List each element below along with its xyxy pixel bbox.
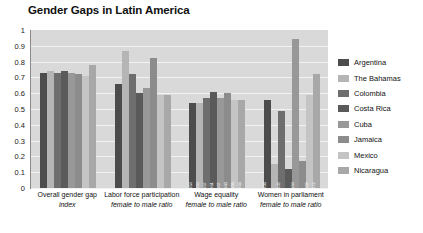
legend-label: Nicaragua xyxy=(354,166,388,175)
bar: 0.56 xyxy=(231,100,238,188)
legend-swatch-icon xyxy=(338,90,349,97)
y-axis-tick-label: 0.3 xyxy=(15,136,25,145)
bar xyxy=(285,169,292,188)
bar-group xyxy=(40,30,96,188)
bar: 0.49 xyxy=(278,111,285,188)
bar xyxy=(129,74,136,188)
legend-item[interactable]: Cuba xyxy=(338,117,423,132)
bar: 0.94 xyxy=(292,39,299,188)
legend-item[interactable]: Costa Rica xyxy=(338,101,423,116)
chart-title: Gender Gaps in Latin America xyxy=(28,4,190,16)
bar xyxy=(47,71,54,188)
y-axis-tick-label: 0.2 xyxy=(15,152,25,161)
bar xyxy=(122,51,129,188)
bar: 0.60 xyxy=(224,93,231,188)
y-axis-tick-label: 0.6 xyxy=(15,89,25,98)
legend-item[interactable]: Colombia xyxy=(338,86,423,101)
bar-group: 0.540.540.570.610.570.600.560.56 xyxy=(189,30,245,188)
legend-item[interactable]: Jamaica xyxy=(338,132,423,147)
legend-label: The Bahamas xyxy=(354,74,401,83)
bar: 0.56 xyxy=(264,100,271,188)
legend-swatch-icon xyxy=(338,75,349,82)
bar: 0.57 xyxy=(217,98,224,188)
bar xyxy=(54,73,61,188)
bar xyxy=(150,58,157,188)
bar: 0.54 xyxy=(189,103,196,188)
bar xyxy=(157,95,164,188)
bar-group: 0.560.490.940.590.72 xyxy=(264,30,320,188)
y-axis-tick-label: 0.8 xyxy=(15,57,25,66)
plot-area: 0.540.540.570.610.570.600.560.560.560.49… xyxy=(30,30,328,188)
x-axis-label-line1: Women in parliament xyxy=(246,190,337,200)
legend-swatch-icon xyxy=(338,121,349,128)
y-axis-tick-label: 0.7 xyxy=(15,73,25,82)
y-axis-tick-label: 0.5 xyxy=(15,105,25,114)
x-axis-label: Women in parliamentfemale to male ratio xyxy=(246,190,337,209)
bar xyxy=(164,95,171,188)
chart-legend: ArgentinaThe BahamasColombiaCosta RicaCu… xyxy=(338,55,423,178)
legend-swatch-icon xyxy=(338,59,349,66)
bar xyxy=(82,76,89,188)
y-axis-tick-label: 0.4 xyxy=(15,120,25,129)
bar: 0.56 xyxy=(238,100,245,188)
legend-swatch-icon xyxy=(338,136,349,143)
legend-item[interactable]: Argentina xyxy=(338,55,423,70)
y-axis-tick-label: 1 xyxy=(21,26,25,35)
chart-container: Gender Gaps in Latin America 10.90.80.70… xyxy=(0,0,423,233)
y-axis: 10.90.80.70.60.50.40.30.20.10 xyxy=(0,24,29,194)
legend-label: Costa Rica xyxy=(354,104,391,113)
bar: 0.54 xyxy=(196,103,203,188)
bar: 0.61 xyxy=(210,92,217,188)
legend-item[interactable]: Nicaragua xyxy=(338,163,423,178)
legend-label: Argentina xyxy=(354,58,386,67)
legend-swatch-icon xyxy=(338,152,349,159)
legend-swatch-icon xyxy=(338,105,349,112)
bar xyxy=(75,74,82,188)
y-axis-tick-label: 0.1 xyxy=(15,168,25,177)
bar xyxy=(40,73,47,188)
bar xyxy=(61,71,68,188)
bar xyxy=(68,73,75,188)
bar xyxy=(271,164,278,188)
bar xyxy=(143,88,150,188)
bar xyxy=(115,84,122,188)
bar xyxy=(299,161,306,188)
bar: 0.59 xyxy=(306,95,313,188)
legend-swatch-icon xyxy=(338,167,349,174)
gridline xyxy=(31,188,328,189)
bar: 0.72 xyxy=(313,74,320,188)
x-axis-labels: Overall gender gapindexLabor force parti… xyxy=(30,190,330,232)
bar: 0.57 xyxy=(203,98,210,188)
bar xyxy=(89,65,96,188)
legend-item[interactable]: Mexico xyxy=(338,147,423,162)
y-axis-tick-label: 0.9 xyxy=(15,41,25,50)
legend-label: Cuba xyxy=(354,120,372,129)
legend-label: Mexico xyxy=(354,151,378,160)
bar xyxy=(136,93,143,188)
legend-label: Jamaica xyxy=(354,135,382,144)
legend-label: Colombia xyxy=(354,89,386,98)
x-axis-label-line2: female to male ratio xyxy=(246,200,337,210)
bar-group xyxy=(115,30,171,188)
legend-item[interactable]: The Bahamas xyxy=(338,70,423,85)
